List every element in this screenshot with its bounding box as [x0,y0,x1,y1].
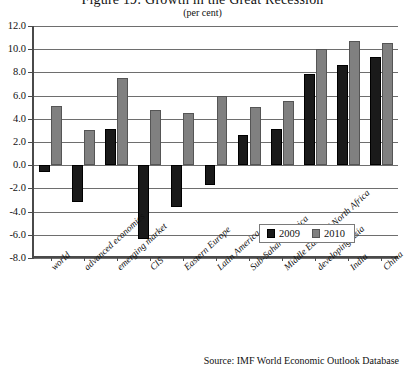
source-note: Source: IMF World Economic Outlook Datab… [204,355,399,366]
y-axis-label: 10.0 [8,44,26,55]
y-axis-label: 4.0 [13,114,26,125]
legend-item-2010: 2010 [312,228,345,239]
bar-group [34,26,398,256]
y-axis-label: 12.0 [8,21,26,32]
y-axis-label: 6.0 [13,90,26,101]
x-axis-tick [381,256,382,261]
x-axis-tick [183,256,184,261]
y-axis-label: -8.0 [9,253,26,264]
y-axis-label: 8.0 [13,67,26,78]
chart-legend: 2009 2010 [259,224,355,243]
x-axis-tick [216,256,217,261]
x-axis-tick [348,256,349,261]
legend-swatch-2010 [312,229,320,238]
x-axis-tick [117,256,118,261]
legend-label-2009: 2009 [279,228,300,239]
x-axis-tick [84,256,85,261]
y-axis-label: -2.0 [9,183,26,194]
x-axis-tick [51,256,52,261]
x-axis-tick [315,256,316,261]
legend-item-2009: 2009 [267,228,300,239]
bar-2009 [370,57,381,165]
y-axis-tick [28,258,34,259]
y-axis-label: -6.0 [9,230,26,241]
bar-series-container [34,26,398,256]
chart-subtitle: (per cent) [0,7,405,18]
y-axis-label: -4.0 [9,206,26,217]
legend-label-2010: 2010 [324,228,345,239]
x-axis-tick [150,256,151,261]
figure-container: Figure 19: Growth in the Great Recession… [0,0,405,374]
bar-2010 [382,43,393,165]
y-axis-label: 2.0 [13,137,26,148]
y-axis-label: 0.0 [13,160,26,171]
legend-swatch-2009 [267,229,275,238]
x-axis-tick [249,256,250,261]
x-axis-tick [282,256,283,261]
